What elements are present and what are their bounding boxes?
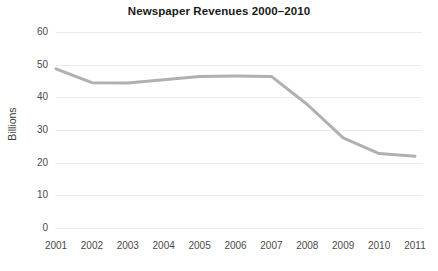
chart-container: Newspaper Revenues 2000–2010 Billions 01…	[0, 0, 438, 271]
data-series-line	[56, 69, 415, 156]
plot-area	[0, 0, 438, 271]
